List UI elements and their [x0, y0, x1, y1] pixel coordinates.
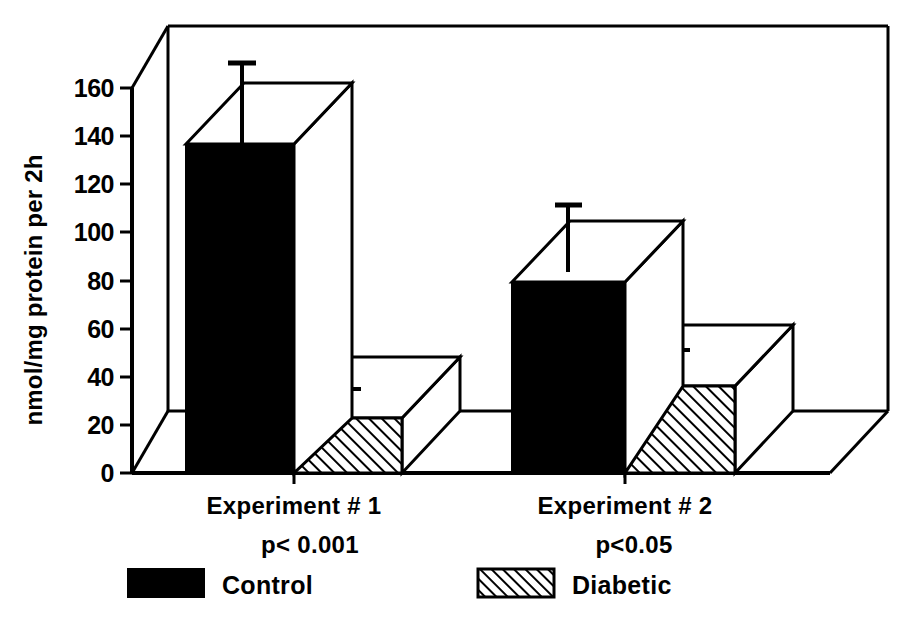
y-tick-label-0: 0 [101, 459, 114, 487]
y-tick-label-60: 60 [87, 315, 114, 343]
legend-swatch-control [128, 569, 204, 597]
y-tick-label-80: 80 [87, 267, 114, 295]
y-tick-label-20: 20 [87, 411, 114, 439]
chart-legend: Control Diabetic [128, 569, 672, 599]
pvalue-label-experiment-1: p< 0.001 [261, 531, 359, 558]
y-tick-label-40: 40 [87, 363, 114, 391]
y-axis-title: nmol/mg protein per 2h [20, 154, 47, 425]
category-label-experiment-2: Experiment # 2 [538, 492, 713, 519]
y-tick-label-120: 120 [74, 170, 114, 198]
pvalue-label-experiment-2: p<0.05 [595, 531, 672, 558]
y-tick-label-160: 160 [74, 74, 114, 102]
y-tick-label-100: 100 [74, 218, 114, 246]
y-tick-label-140: 140 [74, 122, 114, 150]
legend-swatch-diabetic [478, 569, 554, 597]
legend-item-control: Control [128, 569, 313, 599]
chart-figure: 160 140 120 100 80 60 40 20 0 nmol/mg pr… [0, 0, 907, 617]
y-axis: 160 140 120 100 80 60 40 20 0 nmol/mg pr… [20, 74, 132, 487]
legend-item-diabetic: Diabetic [478, 569, 672, 599]
bar-chart-svg: 160 140 120 100 80 60 40 20 0 nmol/mg pr… [0, 0, 907, 617]
legend-label-control: Control [222, 571, 313, 599]
y-axis-tick-labels: 160 140 120 100 80 60 40 20 0 [74, 74, 114, 487]
legend-label-diabetic: Diabetic [572, 571, 672, 599]
x-axis-category-labels: Experiment # 1 p< 0.001 Experiment # 2 p… [207, 492, 713, 558]
bar-exp1-control [186, 63, 352, 473]
category-label-experiment-1: Experiment # 1 [207, 492, 382, 519]
